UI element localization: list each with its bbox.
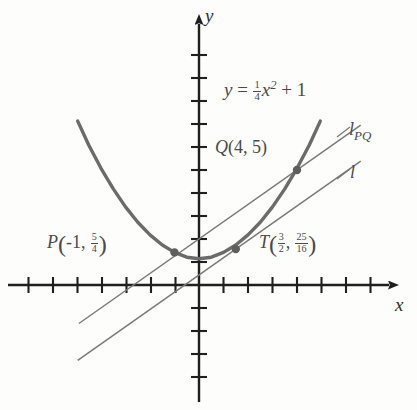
equation-plus: + [281,79,292,100]
point-label-q-name: Q [215,137,228,157]
point-label-q-y: 5 [252,137,261,157]
tangent-line-l [78,161,361,360]
x-axis-label: x [395,295,403,314]
y-axis-label: y [205,6,213,25]
secant-line-label-subscript: PQ [354,128,371,143]
point-marker-t [232,245,240,253]
point-label-t-y-fraction: 2516 [295,232,307,254]
point-label-p: P(-1, 54) [47,232,107,256]
point-label-t-name: T [259,232,269,252]
equation-coefficient-fraction: 14 [253,80,261,104]
point-label-t-x-fraction: 32 [278,232,285,254]
point-label-t-y-numerator: 25 [295,232,307,244]
equation-variable: x [262,79,270,100]
point-label-p-y-fraction: 54 [91,232,98,254]
point-label-p-close-paren: ) [99,232,107,256]
point-label-q: Q(4, 5) [215,138,267,156]
axes-group [8,24,389,402]
point-label-p-open-paren: ( [58,232,66,256]
equation-exponent: 2 [270,78,276,92]
secant-line-label: lPQ [349,120,371,143]
equation-coefficient-numerator: 1 [253,80,261,92]
point-label-q-comma: , [243,137,248,157]
point-label-t: T(32, 2516) [259,232,316,256]
point-label-p-name: P [47,232,58,252]
point-label-t-y-denominator: 16 [295,244,307,255]
equation-lhs: y [224,79,232,100]
point-label-t-comma: , [286,232,291,252]
point-marker-q [293,166,301,174]
point-label-t-x-numerator: 3 [278,232,285,244]
tangent-line-label: l [350,163,355,181]
point-label-p-comma: , [81,232,86,252]
equation-constant: 1 [297,79,307,100]
point-label-p-y-numerator: 5 [91,232,98,244]
point-label-t-x-denominator: 2 [278,244,285,255]
equation-equals: = [237,79,248,100]
graph-figure: y x y = 14x2 + 1 Q(4, 5) P(-1, 54) T(32,… [0,0,417,410]
point-label-q-x: 4 [234,137,243,157]
equation-label: y = 14x2 + 1 [224,79,306,104]
point-label-t-open-paren: ( [269,232,277,256]
equation-coefficient-denominator: 4 [253,92,261,103]
point-label-p-y-denominator: 4 [91,244,98,255]
coordinate-plane-svg [0,0,417,410]
point-label-q-close-paren: ) [261,137,267,157]
point-label-p-x: -1 [66,232,81,252]
point-label-t-close-paren: ) [308,232,316,256]
point-marker-p [170,248,178,256]
